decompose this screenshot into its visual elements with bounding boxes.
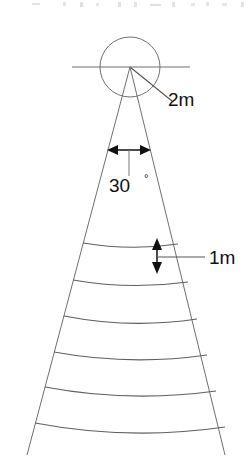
diagram-canvas: 30 ° 2m 1m bbox=[0, 0, 252, 476]
arc-3 bbox=[64, 316, 197, 323]
arc-5 bbox=[45, 387, 216, 396]
degree-symbol-icon: ° bbox=[144, 172, 148, 184]
cone-left-edge bbox=[27, 67, 130, 455]
spacing-arrow-down bbox=[152, 262, 162, 274]
radius-label: 2m bbox=[168, 89, 194, 110]
scan-artifact-strip bbox=[32, 2, 244, 7]
spacing-arrow-up bbox=[152, 238, 162, 250]
arc-1 bbox=[83, 243, 178, 247]
spacing-dimension bbox=[152, 238, 162, 274]
arc-6 bbox=[35, 423, 225, 433]
spacing-label: 1m bbox=[209, 247, 235, 268]
cone-beam-diagram: 30 ° 2m 1m bbox=[0, 0, 252, 476]
arc-2 bbox=[73, 280, 188, 286]
angle-label: 30 bbox=[109, 175, 130, 196]
arc-4 bbox=[54, 352, 207, 360]
